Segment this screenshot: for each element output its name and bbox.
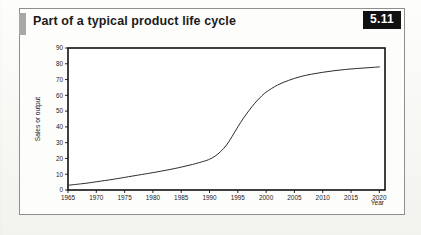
x-tick-label: 1990 — [202, 194, 217, 201]
x-tick-label: 1970 — [89, 194, 104, 201]
x-tick-label: 1995 — [231, 194, 246, 201]
y-tick-label: 0 — [59, 186, 63, 193]
x-tick-label: 2015 — [344, 194, 359, 201]
chart-container: 0102030405060708090 19651970197519801985… — [0, 0, 421, 235]
x-tick-label: 1975 — [117, 194, 132, 201]
y-tick-label: 30 — [56, 139, 64, 146]
plot-area — [68, 48, 385, 190]
y-tick-label: 20 — [56, 155, 64, 162]
y-tick-label: 50 — [56, 107, 64, 114]
x-axis-title: Year — [371, 199, 385, 206]
y-axis-tick-labels: 0102030405060708090 — [56, 44, 64, 193]
line-chart: 0102030405060708090 19651970197519801985… — [0, 0, 421, 235]
y-tick-label: 80 — [56, 60, 64, 67]
x-tick-label: 1965 — [61, 194, 76, 201]
x-tick-label: 2000 — [259, 194, 274, 201]
figure-page: Part of a typical product life cycle 5.1… — [0, 0, 421, 235]
y-tick-label: 90 — [56, 44, 64, 51]
y-tick-label: 40 — [56, 123, 64, 130]
x-tick-label: 1980 — [146, 194, 161, 201]
x-axis-tick-labels: 1965197019751980198519901995200020052010… — [61, 194, 387, 201]
x-tick-label: 2010 — [316, 194, 331, 201]
y-axis-title: Sales or output — [34, 97, 42, 142]
x-tick-label: 1985 — [174, 194, 189, 201]
y-tick-label: 70 — [56, 76, 64, 83]
y-tick-label: 60 — [56, 92, 64, 99]
x-tick-label: 2005 — [287, 194, 302, 201]
y-tick-label: 10 — [56, 171, 64, 178]
